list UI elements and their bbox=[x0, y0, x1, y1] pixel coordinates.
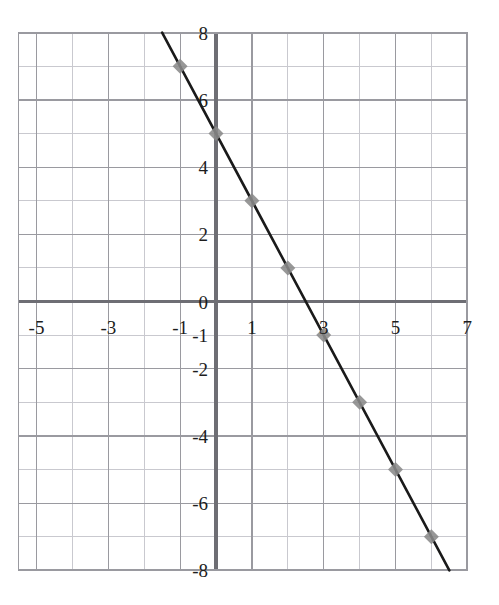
y-tick-label: -6 bbox=[192, 494, 208, 513]
y-tick-label: 0 bbox=[199, 292, 209, 311]
data-point-marker bbox=[388, 462, 403, 477]
x-tick-label: 3 bbox=[319, 317, 329, 336]
data-point-marker bbox=[209, 126, 224, 141]
data-point-marker bbox=[244, 193, 259, 208]
x-tick-label: -1 bbox=[172, 317, 188, 336]
data-point-marker bbox=[352, 395, 367, 410]
axes bbox=[19, 33, 468, 571]
coordinate-plane-plot bbox=[0, 0, 499, 605]
x-tick-label: 1 bbox=[247, 317, 257, 336]
data-point-marker bbox=[280, 260, 295, 275]
data-point-marker bbox=[173, 59, 188, 74]
x-tick-label: 7 bbox=[463, 317, 473, 336]
x-tick-label: -3 bbox=[100, 317, 116, 336]
y-tick-label: -4 bbox=[192, 426, 208, 445]
y-tick-label: -8 bbox=[192, 561, 208, 580]
y-tick-label: 6 bbox=[199, 90, 209, 109]
y-tick-label: -1 bbox=[192, 326, 208, 345]
y-tick-label: 4 bbox=[199, 158, 209, 177]
y-tick-label: 2 bbox=[199, 225, 209, 244]
chart-container: -5-3-11357 86420-1-2-4-6-8 bbox=[0, 0, 499, 605]
y-tick-label: -2 bbox=[192, 359, 208, 378]
x-tick-label: 5 bbox=[391, 317, 401, 336]
data-point-marker bbox=[424, 529, 439, 544]
y-tick-label: 8 bbox=[199, 23, 209, 42]
x-tick-label: -5 bbox=[29, 317, 45, 336]
